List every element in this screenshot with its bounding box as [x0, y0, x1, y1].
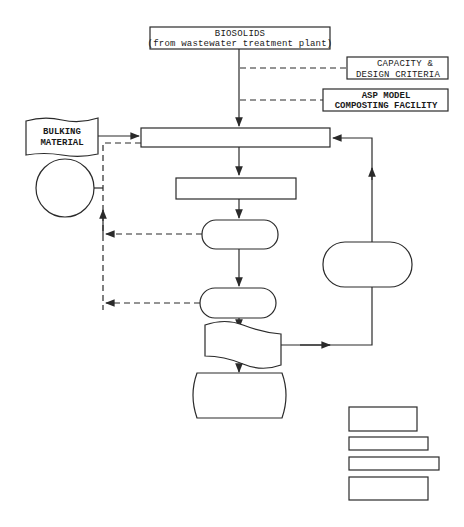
- circle-node: [36, 159, 94, 217]
- legend-box-4: [349, 477, 428, 500]
- legend-box-1: [349, 407, 417, 431]
- bulking-line1: BULKING: [43, 127, 81, 137]
- mixing-box-node: [141, 128, 330, 147]
- legend-boxes: [349, 407, 439, 500]
- pill-2-node: [200, 288, 276, 318]
- asp-line2: COMPOSTING FACILITY: [335, 101, 438, 111]
- barrel-node: [193, 373, 286, 418]
- pill-right-node: [323, 242, 412, 287]
- flow-right-return: [333, 138, 372, 242]
- asp-line1: ASP MODEL: [362, 91, 411, 101]
- capacity-line2: DESIGN CRITERIA: [356, 70, 440, 80]
- flowchart-diagram: BIOSOLIDS (from wastewater treatment pla…: [0, 0, 464, 527]
- pill-1-node: [202, 220, 278, 249]
- biosolids-title: BIOSOLIDS: [215, 29, 265, 39]
- biosolids-subtitle: (from wastewater treatment plant): [148, 39, 333, 49]
- capacity-line1: CAPACITY &: [377, 59, 433, 69]
- bulking-line2: MATERIAL: [40, 138, 83, 148]
- legend-box-2: [349, 437, 428, 450]
- wavy-document-node: [205, 322, 281, 369]
- dashed-return-loop: [103, 143, 141, 310]
- legend-box-3: [349, 457, 439, 470]
- flow-wavy-to-right: [281, 287, 372, 345]
- process-box-node: [176, 178, 296, 199]
